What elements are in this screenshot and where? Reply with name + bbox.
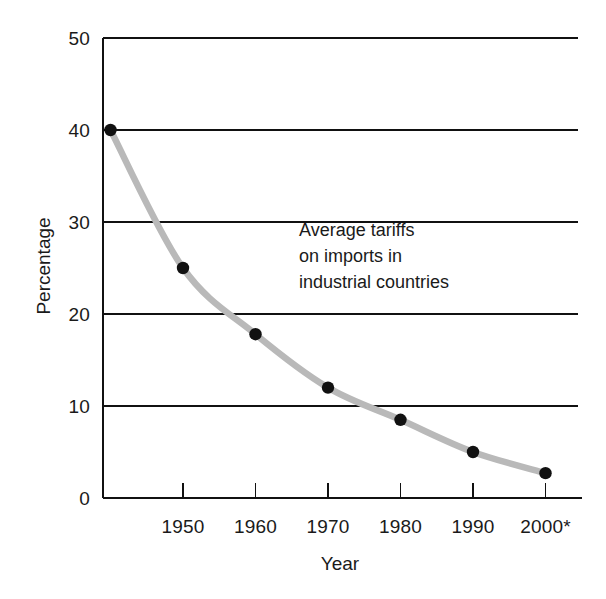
annotation-line-2: on imports in xyxy=(299,246,402,266)
chart-background xyxy=(0,0,606,599)
y-axis-title: Percentage xyxy=(33,217,54,314)
x-tick-label-1960: 1960 xyxy=(234,516,277,537)
y-tick-label-50: 50 xyxy=(68,28,90,49)
y-tick-label-0: 0 xyxy=(79,488,90,509)
data-point-1980 xyxy=(394,414,406,426)
data-point-2000 xyxy=(539,467,551,479)
y-tick-label-10: 10 xyxy=(68,396,90,417)
data-point-1950 xyxy=(177,262,189,274)
y-tick-label-40: 40 xyxy=(68,120,90,141)
x-tick-label-1990: 1990 xyxy=(451,516,494,537)
x-axis-title: Year xyxy=(321,553,360,574)
y-tick-label-30: 30 xyxy=(68,212,90,233)
x-tick-label-2000: 2000* xyxy=(520,516,571,537)
data-point-1990 xyxy=(467,446,479,458)
tariff-line-chart: 01020304050 195019601970198019902000* Av… xyxy=(0,0,606,599)
data-point-1970 xyxy=(322,381,334,393)
data-point-1960 xyxy=(249,328,261,340)
y-tick-label-20: 20 xyxy=(68,304,90,325)
x-tick-label-1970: 1970 xyxy=(306,516,349,537)
x-tick-label-1950: 1950 xyxy=(161,516,204,537)
annotation-line-3: industrial countries xyxy=(299,272,449,292)
annotation-line-1: Average tariffs xyxy=(299,220,414,240)
data-point-1940 xyxy=(104,124,116,136)
x-tick-label-1980: 1980 xyxy=(379,516,422,537)
chart-figure: 01020304050 195019601970198019902000* Av… xyxy=(0,0,606,599)
